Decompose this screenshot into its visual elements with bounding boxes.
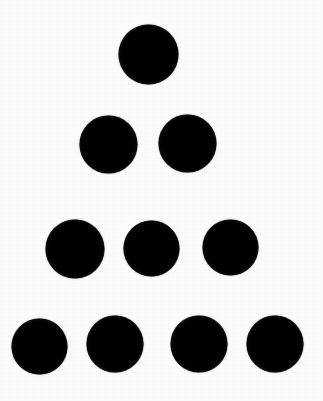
dot-marker	[87, 316, 143, 372]
dot-marker	[171, 316, 227, 372]
dot-marker	[247, 316, 303, 372]
dot-marker	[159, 115, 216, 172]
dot-marker	[119, 25, 178, 84]
dot-marker	[80, 116, 137, 173]
dot-marker	[203, 220, 258, 275]
dot-marker	[12, 319, 67, 374]
dot-marker	[124, 221, 179, 276]
dot-pattern-canvas	[0, 0, 323, 401]
dot-marker	[46, 220, 104, 278]
